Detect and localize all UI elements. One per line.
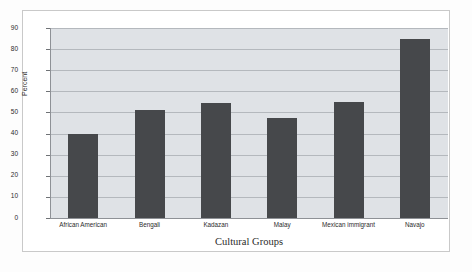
y-tick-mark (46, 91, 50, 92)
y-tick-label: 30 (0, 151, 18, 158)
y-tick-mark (46, 218, 50, 219)
y-axis-line (50, 28, 51, 218)
gridline (50, 70, 448, 71)
y-tick-mark (46, 197, 50, 198)
gridline (50, 197, 448, 198)
y-tick-label: 0 (0, 215, 18, 222)
bar (400, 39, 430, 218)
y-tick-label: 80 (0, 46, 18, 53)
bar (68, 134, 98, 218)
chart-figure: 0102030405060708090 African AmericanBeng… (0, 0, 472, 272)
x-axis-line (50, 218, 448, 219)
x-tick-label: Malay (249, 222, 315, 229)
y-tick-label: 70 (0, 67, 18, 74)
gridline (50, 91, 448, 92)
x-tick-label: Bengali (116, 222, 182, 229)
bar (135, 110, 165, 218)
y-tick-label: 90 (0, 25, 18, 32)
bar (334, 102, 364, 218)
y-tick-label: 50 (0, 109, 18, 116)
y-tick-mark (46, 155, 50, 156)
gridline (50, 112, 448, 113)
x-tick-label: Mexican immigrant (315, 222, 381, 229)
bar (201, 103, 231, 218)
y-tick-label: 60 (0, 88, 18, 95)
x-axis-title: Cultural Groups (50, 236, 448, 247)
y-tick-mark (46, 134, 50, 135)
y-axis-title: Percent (21, 72, 28, 96)
y-tick-mark (46, 49, 50, 50)
x-tick-label: Navajo (382, 222, 448, 229)
x-tick-label: Kadazan (183, 222, 249, 229)
y-tick-mark (46, 70, 50, 71)
y-tick-mark (46, 176, 50, 177)
y-tick-label: 10 (0, 193, 18, 200)
bar (267, 118, 297, 218)
gridline (50, 49, 448, 50)
x-tick-label: African American (50, 222, 116, 229)
gridline (50, 134, 448, 135)
y-tick-label: 20 (0, 172, 18, 179)
plot-area (50, 28, 448, 218)
gridline (50, 176, 448, 177)
y-tick-mark (46, 28, 50, 29)
gridline (50, 155, 448, 156)
y-tick-label: 40 (0, 130, 18, 137)
gridline (50, 28, 448, 29)
y-tick-mark (46, 112, 50, 113)
